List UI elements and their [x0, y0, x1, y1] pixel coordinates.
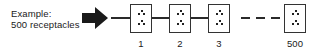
caption-line-2: 500 receptacles [11, 19, 80, 30]
receptacle-label: 3 [204, 38, 234, 49]
receptacle-2 [169, 4, 191, 33]
outlet-slot [180, 10, 182, 12]
right-arrow-icon [82, 7, 108, 29]
outlet-slot [219, 20, 221, 22]
receptacle-1 [130, 4, 152, 33]
receptacle-label: 500 [280, 38, 310, 49]
outlet-slot [141, 10, 143, 12]
caption-line-1: Example: [11, 8, 80, 19]
outlet-slot [182, 13, 184, 15]
receptacle-500 [284, 4, 306, 33]
wire-segment [111, 17, 130, 19]
outlet-slot [143, 23, 145, 25]
wire-dash [241, 17, 250, 19]
outlet-slot [180, 20, 182, 22]
receptacle-3 [208, 4, 230, 33]
outlet-slot [221, 23, 223, 25]
outlet-slot [216, 13, 218, 15]
outlet-slot [177, 13, 179, 15]
outlet-slot [292, 13, 294, 15]
outlet-slot [295, 20, 297, 22]
outlet-slot [143, 13, 145, 15]
outlet-slot [297, 23, 299, 25]
receptacle-label: 2 [165, 38, 195, 49]
receptacle-label: 1 [126, 38, 156, 49]
wire-segment [152, 17, 169, 19]
outlet-slot [219, 10, 221, 12]
wire-dash [256, 17, 265, 19]
outlet-slot [216, 23, 218, 25]
outlet-slot [292, 23, 294, 25]
outlet-slot [141, 20, 143, 22]
outlet-slot [138, 13, 140, 15]
example-caption: Example: 500 receptacles [11, 8, 80, 30]
wire-dash [271, 17, 280, 19]
outlet-slot [138, 23, 140, 25]
outlet-slot [182, 23, 184, 25]
outlet-slot [177, 23, 179, 25]
outlet-slot [295, 10, 297, 12]
wire-segment [191, 17, 208, 19]
outlet-slot [221, 13, 223, 15]
outlet-slot [297, 13, 299, 15]
